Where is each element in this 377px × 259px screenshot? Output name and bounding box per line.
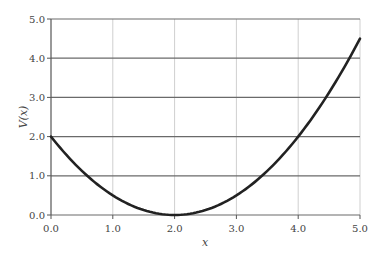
x-tick-label: 5.0	[352, 223, 368, 234]
y-tick-label: 5.0	[29, 14, 45, 25]
y-tick-label: 3.0	[29, 92, 45, 103]
chart-canvas: 0.01.02.03.04.05.0 0.01.02.03.04.05.0 x …	[0, 0, 377, 259]
x-tick-label: 1.0	[105, 223, 121, 234]
y-tick-label: 2.0	[29, 131, 45, 142]
x-axis-label: x	[202, 236, 209, 249]
y-axis-label: V(x)	[17, 106, 30, 129]
x-tick-labels: 0.01.02.03.04.05.0	[43, 223, 368, 234]
axes	[47, 19, 360, 219]
x-tick-label: 3.0	[228, 223, 244, 234]
series-line-vx	[51, 39, 360, 215]
y-tick-label: 1.0	[29, 170, 45, 181]
y-tick-label: 0.0	[29, 210, 45, 221]
y-tick-labels: 0.01.02.03.04.05.0	[29, 14, 45, 221]
y-tick-label: 4.0	[29, 53, 45, 64]
x-tick-label: 0.0	[43, 223, 59, 234]
x-tick-label: 2.0	[167, 223, 183, 234]
x-tick-label: 4.0	[290, 223, 306, 234]
